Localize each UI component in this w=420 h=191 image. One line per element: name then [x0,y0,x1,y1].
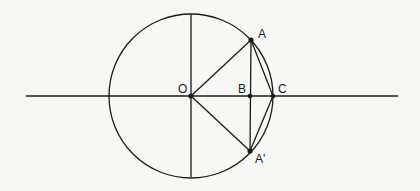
label-O: O [178,83,187,95]
point-C [271,94,276,99]
segment-AC [251,40,273,96]
geometry-diagram: O A B C A' [0,0,420,191]
segment-OA-prime [191,96,250,151]
point-B [248,94,253,99]
label-C: C [278,83,287,95]
segment-A-prime-C [250,96,273,151]
point-O [188,93,193,98]
point-A [248,37,253,42]
point-A-prime [247,148,252,153]
label-B: B [238,83,246,95]
diagram-drawing [0,0,420,191]
label-A: A [258,28,266,40]
label-A-prime: A' [255,153,265,165]
